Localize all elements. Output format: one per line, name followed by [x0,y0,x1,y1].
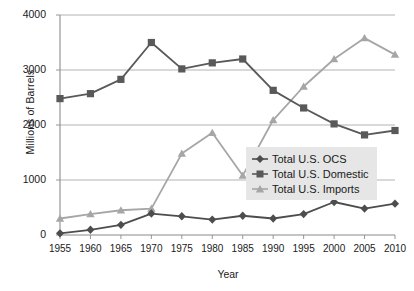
x-tick-label: 1980 [195,243,229,254]
y-tick-label: 4000 [0,9,46,20]
data-point-marker [300,104,307,111]
y-axis-title: Millions of Barrels [24,32,36,192]
legend-item-ocs: Total U.S. OCS [251,151,369,166]
legend-item-imports: Total U.S. Imports [251,181,369,196]
legend-item-domestic: Total U.S. Domestic [251,166,369,181]
triangle-marker-icon [251,182,269,196]
y-tick-label: 0 [0,229,46,240]
chart-legend: Total U.S. OCS Total U.S. Domestic Total… [246,147,377,200]
x-tick-label: 2010 [378,243,412,254]
data-point-marker [148,39,155,46]
x-tick-label: 1955 [43,243,77,254]
legend-label-imports: Total U.S. Imports [269,183,359,195]
diamond-marker-icon [251,152,269,166]
data-point-marker [56,95,63,102]
data-point-marker [239,55,246,62]
data-point-marker [300,210,308,218]
legend-label-ocs: Total U.S. OCS [269,153,347,165]
data-point-marker [270,87,277,94]
x-axis-title: Year [60,268,396,280]
x-tick-label: 1965 [104,243,138,254]
data-point-marker [239,212,247,220]
x-tick-label: 2005 [348,243,382,254]
x-tick-label: 1975 [165,243,199,254]
data-point-marker [391,199,399,207]
data-point-marker [86,226,94,234]
data-point-marker [361,204,369,212]
x-tick-label: 1960 [73,243,107,254]
data-point-marker [56,229,64,237]
x-tick-label: 1970 [134,243,168,254]
data-point-marker [208,215,216,223]
data-point-marker [361,131,368,138]
data-point-marker [178,212,186,220]
data-point-marker [330,120,337,127]
x-tick-label: 2000 [317,243,351,254]
data-point-marker [208,129,216,136]
square-marker-icon [251,167,269,181]
y-tick-label: 1000 [0,174,46,185]
series-line [60,202,395,233]
data-point-marker [209,59,216,66]
chart-container: Millions of Barrels Year 010002000300040… [0,0,414,291]
series-total-u-s-ocs [56,198,399,238]
data-point-marker [87,90,94,97]
data-point-marker [117,76,124,83]
data-point-marker [360,34,368,41]
series-line [60,43,395,135]
data-point-marker [391,51,399,58]
y-tick-label: 2000 [0,119,46,130]
x-tick-label: 1985 [226,243,260,254]
legend-label-domestic: Total U.S. Domestic [269,168,369,180]
data-point-marker [178,65,185,72]
data-point-marker [269,214,277,222]
x-tick-label: 1990 [256,243,290,254]
series-total-u-s-domestic [56,39,398,139]
y-tick-label: 3000 [0,64,46,75]
data-point-marker [391,127,398,134]
data-point-marker [117,221,125,229]
x-tick-label: 1995 [287,243,321,254]
